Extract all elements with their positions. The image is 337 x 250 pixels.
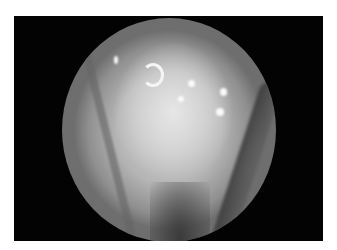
dark-lumen [150,182,210,241]
endoscope-field [62,18,276,241]
light-reflection [188,80,195,87]
tissue-fold-right [210,79,276,241]
light-reflection [178,96,184,102]
light-reflection [114,56,118,64]
light-reflection-ring [142,63,164,87]
light-reflection [216,108,224,116]
image-frame [14,16,323,241]
light-reflection [220,88,227,96]
tissue-fold-left [82,50,138,241]
